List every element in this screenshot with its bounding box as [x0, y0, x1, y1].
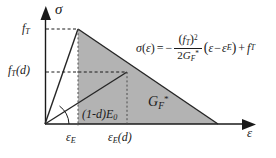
epsE-subscript: E	[71, 136, 76, 145]
diagram-canvas	[0, 0, 276, 158]
slope-text: (1-d)E	[82, 107, 113, 121]
gf-superscript: *	[164, 94, 169, 104]
eq-close-paren: )	[151, 42, 155, 54]
eq-den-base: G	[183, 49, 191, 61]
epsEd-tail: (d)	[118, 130, 132, 144]
ft-subscript: T	[25, 27, 30, 36]
stress-strain-diagram: σ ε fT fT(d) εE εE(d) (1-d)E0 GF* σ(ε)=−…	[0, 0, 276, 158]
y-axis-arrowhead	[41, 6, 52, 20]
slope-subscript: 0	[113, 113, 117, 122]
eq-tail-subscript: T	[250, 44, 255, 52]
y-axis-label: σ	[55, 2, 62, 17]
x-tick-label-eps-e: εE	[66, 131, 76, 145]
fracture-energy-label: GF*	[148, 95, 169, 111]
x-tick-label-eps-e-d: εE(d)	[108, 131, 132, 145]
y-tick-label-ft: fT	[22, 22, 30, 36]
eq-equals: =	[157, 42, 164, 54]
x-axis-label: ε	[247, 126, 252, 139]
eq-minus: −	[165, 42, 172, 54]
eq-den-superscript: *	[195, 49, 199, 57]
ftd-tail: (d)	[16, 63, 30, 77]
gf-base: G	[148, 94, 158, 109]
eq-denominator: 2GF*	[174, 49, 202, 63]
eq-num-exponent: 2	[194, 34, 198, 42]
slope-angle-arc	[60, 106, 70, 124]
eq-term-minus: −	[214, 42, 221, 54]
eq-numerator: (fT)2	[175, 33, 200, 48]
eq-fraction: (fT)2 2GF*	[174, 33, 202, 62]
eq-term-close: )	[232, 41, 237, 55]
y-tick-label-ft-d: fT(d)	[8, 64, 30, 78]
eq-plus: +	[238, 42, 245, 54]
softening-equation: σ(ε)=− (fT)2 2GF* (ε−εE)+fT	[136, 33, 255, 62]
elastic-loading-line	[45, 29, 78, 124]
slope-annotation: (1-d)E0	[82, 108, 117, 122]
eq-term-eps: ε	[208, 42, 213, 54]
